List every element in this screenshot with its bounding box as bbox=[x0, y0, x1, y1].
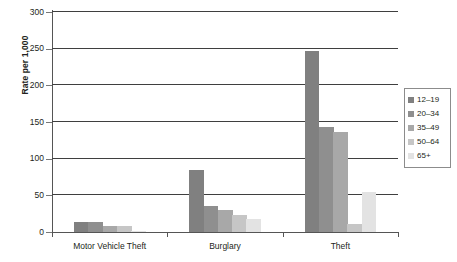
grid-line bbox=[52, 48, 398, 49]
grid-line bbox=[52, 11, 398, 12]
y-tick-mark bbox=[46, 12, 52, 13]
bar bbox=[305, 51, 320, 232]
bar bbox=[117, 226, 132, 232]
bar bbox=[74, 222, 89, 232]
y-tick-mark bbox=[46, 49, 52, 50]
legend-swatch-icon bbox=[408, 139, 414, 145]
y-tick-label: 200 bbox=[2, 81, 44, 90]
bar bbox=[204, 206, 219, 232]
legend: 12–1920–3435–4950–6465+ bbox=[404, 88, 451, 168]
bar bbox=[131, 231, 146, 232]
legend-label: 50–64 bbox=[417, 138, 439, 146]
y-tick-label: 250 bbox=[2, 44, 44, 53]
legend-swatch-icon bbox=[408, 111, 414, 117]
x-tick-mark bbox=[167, 232, 168, 237]
bar bbox=[232, 215, 247, 232]
legend-swatch-icon bbox=[408, 153, 414, 159]
y-tick-mark bbox=[46, 122, 52, 123]
legend-swatch-icon bbox=[408, 125, 414, 131]
y-tick-label: 0 bbox=[2, 228, 44, 237]
x-tick-mark bbox=[283, 232, 284, 237]
legend-label: 20–34 bbox=[417, 110, 439, 118]
x-category-label: Burglary bbox=[167, 241, 282, 251]
bar bbox=[218, 210, 233, 232]
y-tick-label: 150 bbox=[2, 118, 44, 127]
y-tick-label: 300 bbox=[2, 8, 44, 17]
bar bbox=[103, 226, 118, 232]
grid-line bbox=[52, 84, 398, 85]
bar bbox=[246, 219, 261, 232]
legend-swatch-icon bbox=[408, 97, 414, 103]
y-tick-label: 100 bbox=[2, 154, 44, 163]
legend-item[interactable]: 12–19 bbox=[408, 93, 447, 107]
legend-item[interactable]: 20–34 bbox=[408, 107, 447, 121]
y-axis-title: Rate per 1,000 bbox=[20, 0, 30, 130]
bar bbox=[362, 192, 377, 232]
x-category-label: Motor Vehicle Theft bbox=[52, 241, 167, 251]
x-category-label: Theft bbox=[283, 241, 398, 251]
bar-chart: Rate per 1,000 050100150200250300 Motor … bbox=[0, 0, 457, 262]
plot-area bbox=[52, 12, 398, 232]
legend-label: 35–49 bbox=[417, 124, 439, 132]
legend-label: 12–19 bbox=[417, 96, 439, 104]
bar bbox=[189, 170, 204, 232]
bar bbox=[347, 224, 362, 232]
legend-item[interactable]: 35–49 bbox=[408, 121, 447, 135]
grid-line bbox=[52, 121, 398, 122]
bar bbox=[88, 222, 103, 232]
y-tick-mark bbox=[46, 85, 52, 86]
legend-label: 65+ bbox=[417, 152, 431, 160]
bar bbox=[333, 132, 348, 232]
y-tick-label: 50 bbox=[2, 191, 44, 200]
y-tick-mark bbox=[46, 159, 52, 160]
x-tick-mark bbox=[398, 232, 399, 237]
y-tick-mark bbox=[46, 195, 52, 196]
legend-item[interactable]: 50–64 bbox=[408, 135, 447, 149]
legend-item[interactable]: 65+ bbox=[408, 149, 447, 163]
bar bbox=[319, 127, 334, 232]
x-tick-mark bbox=[52, 232, 53, 237]
x-axis-line bbox=[52, 232, 399, 233]
